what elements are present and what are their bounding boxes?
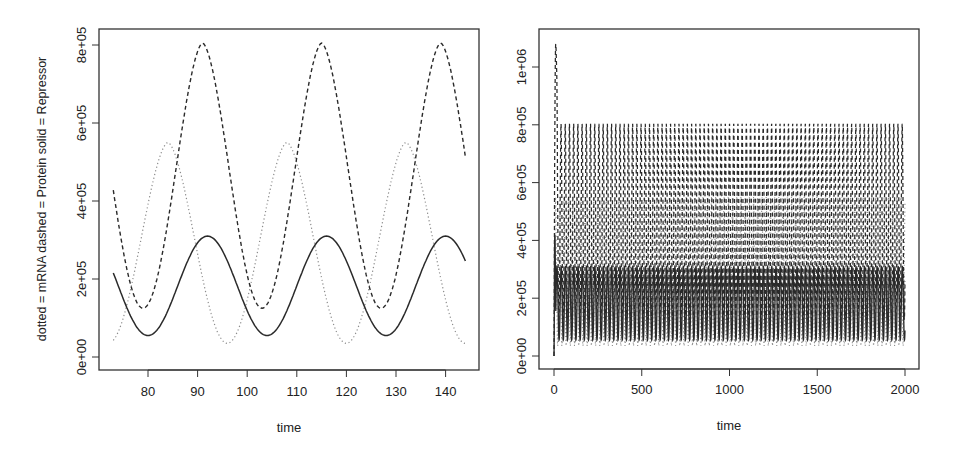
left-plot-series [113, 43, 465, 343]
x-tick-label: 120 [336, 384, 358, 399]
left-y-axis: 0e+002e+054e+056e+058e+05 [74, 27, 99, 376]
series-repressor [113, 236, 465, 336]
right-x-axis: 0500100015002000 [550, 369, 919, 397]
y-tick-label: 2e+05 [74, 261, 89, 298]
left-plot-frame [99, 29, 479, 370]
x-tick-label: 140 [435, 384, 457, 399]
right-plot-panel: 0500100015002000 0e+002e+054e+056e+058e+… [514, 29, 919, 433]
x-tick-label: 0 [550, 382, 557, 397]
x-tick-label: 1500 [803, 382, 832, 397]
y-tick-label: 8e+05 [74, 27, 89, 64]
y-tick-label: 2e+05 [514, 280, 529, 317]
right-x-axis-label: time [717, 418, 742, 433]
x-tick-label: 500 [631, 382, 653, 397]
chart-figure: 8090100110120130140 0e+002e+054e+056e+05… [0, 0, 959, 459]
x-tick-label: 2000 [891, 382, 920, 397]
y-tick-label: 4e+05 [74, 183, 89, 220]
y-tick-label: 0e+00 [74, 339, 89, 376]
left-y-axis-label: dotted = mRNA dashed = Protein solid = R… [35, 57, 49, 342]
y-tick-label: 0e+00 [514, 338, 529, 375]
y-tick-label: 6e+05 [74, 105, 89, 142]
x-tick-label: 130 [385, 384, 407, 399]
x-tick-label: 110 [286, 384, 307, 399]
right-plot-series [554, 44, 905, 356]
left-x-axis: 8090100110120130140 [141, 370, 457, 399]
x-tick-label: 90 [190, 384, 204, 399]
x-tick-label: 80 [141, 384, 155, 399]
y-tick-label: 1e+06 [514, 49, 529, 86]
right-y-axis: 0e+002e+054e+056e+058e+051e+06 [514, 49, 539, 375]
series-protein [113, 43, 465, 308]
x-tick-label: 1000 [715, 382, 744, 397]
y-tick-label: 4e+05 [514, 222, 529, 259]
x-tick-label: 100 [236, 384, 258, 399]
y-tick-label: 8e+05 [514, 107, 529, 144]
left-x-axis-label: time [277, 420, 302, 435]
y-tick-label: 6e+05 [514, 164, 529, 201]
left-plot-panel: 8090100110120130140 0e+002e+054e+056e+05… [35, 27, 479, 435]
